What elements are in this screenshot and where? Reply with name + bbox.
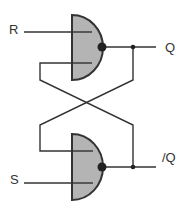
- bottom-nand-gate: [72, 134, 107, 200]
- q-bar-label: /Q: [162, 150, 176, 165]
- sr-latch-diagram: R S Q /Q: [0, 0, 189, 218]
- r-label: R: [9, 22, 18, 37]
- inversion-bubble-icon: [98, 163, 107, 172]
- q-label: Q: [165, 40, 175, 55]
- q-bar-junction-dot: [131, 165, 136, 170]
- s-label: S: [10, 172, 19, 187]
- q-junction-dot: [131, 45, 136, 50]
- inversion-bubble-icon: [98, 43, 107, 52]
- top-nand-gate: [72, 15, 107, 80]
